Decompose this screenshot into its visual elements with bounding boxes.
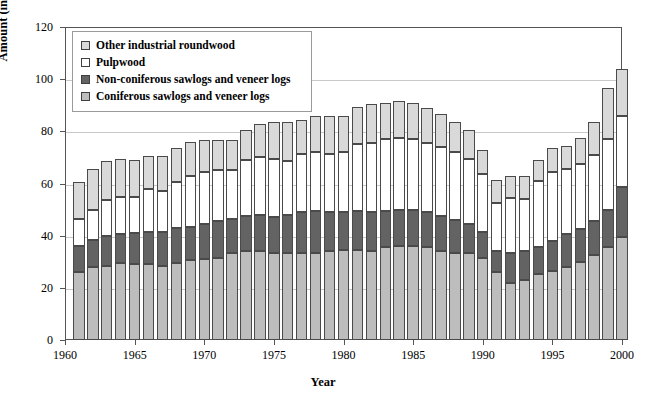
bar-segment xyxy=(254,124,265,158)
legend-swatch-icon xyxy=(81,41,90,50)
bar-segment xyxy=(463,224,474,253)
bar-segment xyxy=(324,116,335,154)
bar-segment xyxy=(588,155,599,222)
bar-segment xyxy=(87,210,98,240)
bar-segment xyxy=(588,221,599,255)
bar-segment xyxy=(505,176,516,198)
bar-segment xyxy=(407,246,418,340)
bar-segment xyxy=(338,250,349,340)
bar-segment xyxy=(101,236,112,266)
legend-item-label: Other industrial roundwood xyxy=(96,40,235,52)
bar-segment xyxy=(226,170,237,218)
bar-segment xyxy=(449,122,460,152)
bar-segment xyxy=(143,232,154,265)
bar xyxy=(226,140,237,340)
bar-segment xyxy=(254,157,265,214)
bar-segment xyxy=(129,233,140,264)
x-axis-tick xyxy=(413,340,414,345)
bar-segment xyxy=(157,232,168,266)
bar-segment xyxy=(143,264,154,340)
bar-segment xyxy=(393,101,404,138)
bar-chart: 020406080100120 Amount (in million cubic… xyxy=(0,0,646,403)
bar xyxy=(282,122,293,340)
bar-segment xyxy=(435,147,446,216)
bar-segment xyxy=(561,234,572,267)
bar-segment xyxy=(533,247,544,273)
bar-segment xyxy=(575,229,586,262)
bar-segment xyxy=(491,180,502,203)
bar xyxy=(87,169,98,340)
bar xyxy=(115,159,126,340)
bar xyxy=(101,161,112,340)
x-axis-tick-label: 1990 xyxy=(463,348,503,363)
bar-segment xyxy=(352,107,363,145)
bar-segment xyxy=(575,262,586,340)
x-axis-tick xyxy=(622,340,623,345)
bar-segment xyxy=(380,103,391,140)
y-axis-tick-label: 80 xyxy=(25,125,53,137)
bar-segment xyxy=(143,156,154,189)
bar-segment xyxy=(157,191,168,231)
bar xyxy=(393,101,404,340)
bar-segment xyxy=(366,143,377,212)
bar-segment xyxy=(115,263,126,340)
x-axis-tick xyxy=(65,340,66,345)
bar xyxy=(73,182,84,340)
bar-segment xyxy=(352,250,363,340)
bar-segment xyxy=(602,139,613,209)
bar xyxy=(561,146,572,340)
bar-segment xyxy=(575,138,586,164)
bar-segment xyxy=(282,253,293,340)
bar xyxy=(199,140,210,340)
bar-segment xyxy=(101,266,112,340)
bar-segment xyxy=(310,253,321,340)
bar-segment xyxy=(115,234,126,263)
bar-segment xyxy=(101,200,112,235)
bar xyxy=(157,156,168,340)
bar-segment xyxy=(296,154,307,213)
bar-segment xyxy=(491,251,502,272)
bar-segment xyxy=(171,182,182,228)
x-axis-tick xyxy=(135,340,136,345)
bar-segment xyxy=(296,120,307,154)
bar-segment xyxy=(435,251,446,340)
bar xyxy=(547,148,558,340)
bar-segment xyxy=(519,251,530,280)
bar-segment xyxy=(324,251,335,340)
bar-segment xyxy=(477,258,488,340)
legend-item: Coniferous sawlogs and veneer logs xyxy=(81,89,303,104)
bar-segment xyxy=(588,122,599,155)
bar-segment xyxy=(129,264,140,340)
bar-segment xyxy=(449,253,460,340)
legend-item: Non-coniferous sawlogs and veneer logs xyxy=(81,72,303,87)
bar-segment xyxy=(73,272,84,340)
bar-segment xyxy=(240,216,251,251)
legend-swatch-icon xyxy=(81,75,90,84)
bar-segment xyxy=(73,246,84,272)
x-axis-tick xyxy=(483,340,484,345)
bar xyxy=(505,176,516,340)
bar-segment xyxy=(547,271,558,340)
y-axis-tick-label: 40 xyxy=(25,230,53,242)
bar-segment xyxy=(171,148,182,182)
bar-segment xyxy=(199,224,210,259)
bar xyxy=(616,69,627,340)
bar-segment xyxy=(212,170,223,221)
bar-segment xyxy=(352,211,363,250)
bar-segment xyxy=(602,88,613,139)
bar-segment xyxy=(366,251,377,340)
bar-segment xyxy=(338,212,349,250)
x-axis-title: Year xyxy=(0,375,646,390)
bar-segment xyxy=(477,150,488,175)
bar-segment xyxy=(129,160,140,197)
bar-segment xyxy=(393,246,404,340)
chart-legend: Other industrial roundwood Pulpwood Non-… xyxy=(72,31,312,112)
bar-segment xyxy=(491,272,502,340)
bar-segment xyxy=(616,116,627,188)
bar-segment xyxy=(505,253,516,283)
bar xyxy=(254,124,265,340)
bar-segment xyxy=(449,152,460,220)
bar-segment xyxy=(366,104,377,143)
bar-segment xyxy=(616,69,627,116)
bar-segment xyxy=(519,280,530,340)
